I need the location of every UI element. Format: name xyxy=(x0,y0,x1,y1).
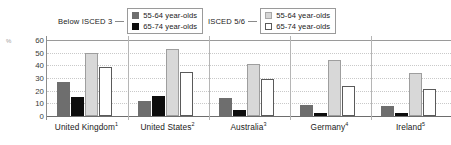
bar xyxy=(395,113,408,116)
legend-connector-line xyxy=(115,21,124,22)
bar xyxy=(138,101,151,116)
bar xyxy=(409,73,422,116)
bar xyxy=(233,110,246,116)
bar xyxy=(166,49,179,116)
legend-item-label: 55-64 year-olds xyxy=(276,11,330,20)
bar xyxy=(381,106,394,116)
y-axis-tick-label: 30 xyxy=(35,74,44,83)
y-axis-tick-label: 40 xyxy=(35,61,44,70)
y-axis-tick-label: 60 xyxy=(35,36,44,45)
x-axis-category-label: Ireland5 xyxy=(396,122,425,132)
bar xyxy=(300,105,313,116)
legend-group-label-below-isced-3: Below ISCED 3 xyxy=(58,17,112,26)
x-axis-category-label: United States2 xyxy=(141,122,195,132)
legend-group-label-isced-5-6: ISCED 5/6 xyxy=(208,17,245,26)
dark-gray-filled-square-icon xyxy=(132,12,139,19)
legend-group-isced-5-6: ISCED 5/6 55-64 year-olds 65-74 year-old… xyxy=(208,8,336,34)
x-axis-category-label: Australia3 xyxy=(230,122,266,132)
bar xyxy=(423,89,436,116)
y-axis-tick-label: 20 xyxy=(35,86,44,95)
x-axis-category-label: Germany4 xyxy=(311,122,349,132)
y-axis-unit-label: % xyxy=(6,38,11,44)
bar xyxy=(152,96,165,116)
white-outlined-square-icon xyxy=(265,23,272,30)
legend-item: 65-74 year-olds xyxy=(132,22,197,31)
plot-canvas xyxy=(46,36,451,120)
legend-item: 65-74 year-olds xyxy=(265,22,330,31)
bar xyxy=(219,98,232,116)
footnote-marker: 5 xyxy=(422,121,425,127)
legend-item-label: 65-74 year-olds xyxy=(276,22,330,31)
bar xyxy=(71,97,84,116)
legend-connector-line xyxy=(248,21,257,22)
bar-chart: Below ISCED 3 55-64 year-olds 65-74 year… xyxy=(0,0,451,145)
footnote-marker: 3 xyxy=(263,121,266,127)
bars-layer xyxy=(47,36,451,120)
plot-area: % 6050403020100 xyxy=(0,36,451,120)
x-axis-category-label: United Kingdom1 xyxy=(55,122,118,132)
footnote-marker: 4 xyxy=(345,121,348,127)
bar xyxy=(342,86,355,116)
footnote-marker: 2 xyxy=(191,121,194,127)
bar xyxy=(314,113,327,116)
bar xyxy=(99,67,112,116)
bar xyxy=(328,60,341,116)
x-axis: United Kingdom1United States2Australia3G… xyxy=(46,122,451,142)
legend-group-below-isced-3: Below ISCED 3 55-64 year-olds 65-74 year… xyxy=(58,8,203,34)
bar xyxy=(261,79,274,116)
bar xyxy=(180,72,193,116)
black-filled-square-icon xyxy=(132,23,139,30)
light-gray-filled-square-icon xyxy=(265,12,272,19)
bar xyxy=(57,82,70,116)
y-axis-tick-label: 0 xyxy=(40,112,44,121)
y-axis-tick-label: 10 xyxy=(35,99,44,108)
legend-item-label: 65-74 year-olds xyxy=(143,22,197,31)
bar xyxy=(85,53,98,116)
legend-item: 55-64 year-olds xyxy=(132,11,197,20)
y-axis-tick-label: 50 xyxy=(35,48,44,57)
y-axis: % 6050403020100 xyxy=(0,36,46,120)
legend-item-label: 55-64 year-olds xyxy=(143,11,197,20)
legend-box-below-isced-3: 55-64 year-olds 65-74 year-olds xyxy=(127,8,203,34)
footnote-marker: 1 xyxy=(115,121,118,127)
legend-box-isced-5-6: 55-64 year-olds 65-74 year-olds xyxy=(260,8,336,34)
legend-item: 55-64 year-olds xyxy=(265,11,330,20)
bar xyxy=(247,64,260,116)
